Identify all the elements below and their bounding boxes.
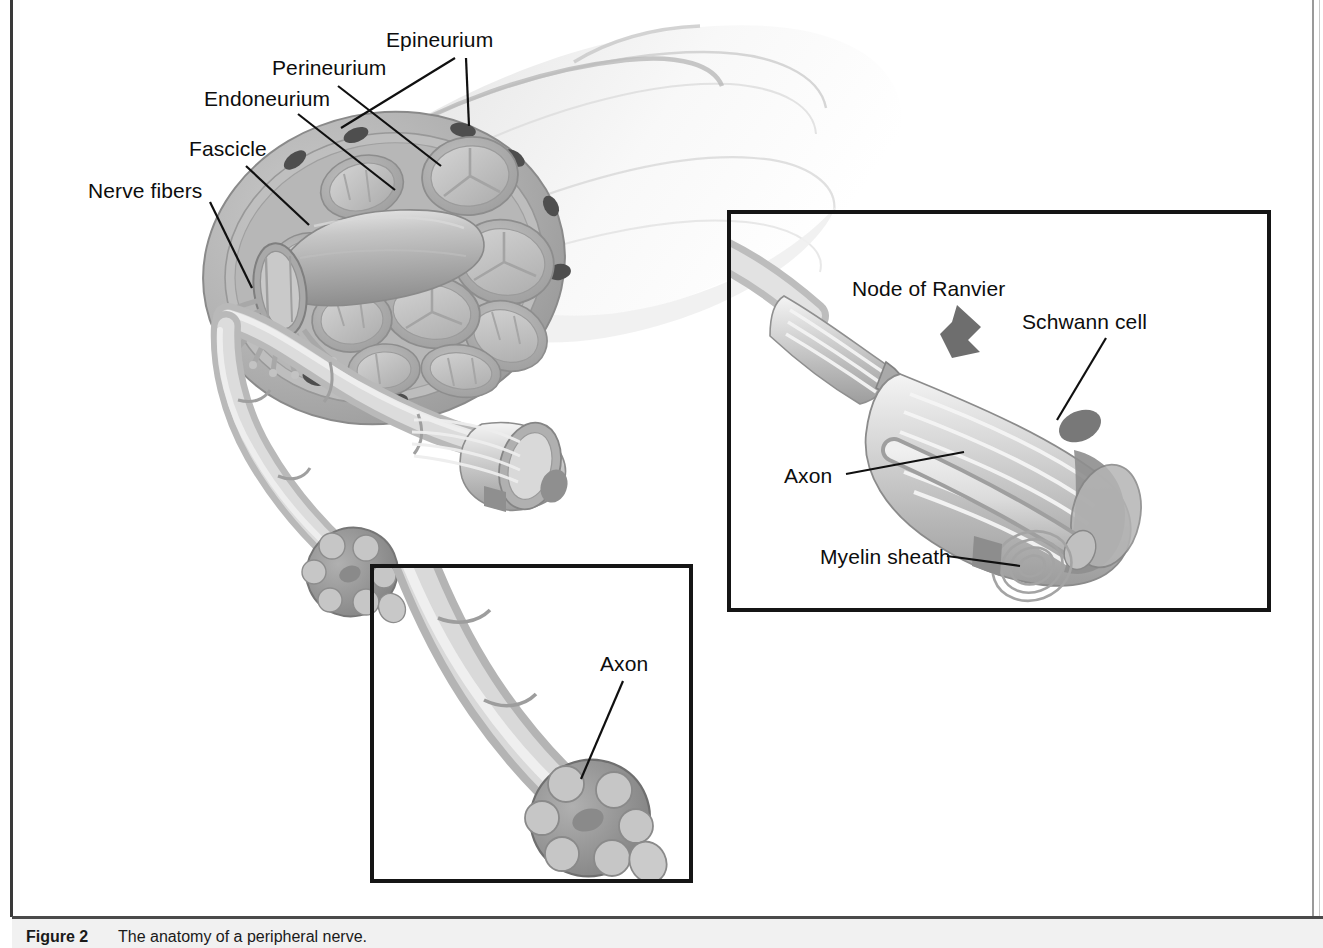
page-rule-left	[10, 0, 13, 917]
label-epineurium: Epineurium	[386, 29, 493, 50]
label-schwann-cell: Schwann cell	[1022, 311, 1147, 332]
label-fascicle: Fascicle	[189, 138, 267, 159]
label-node-of-ranvier: Node of Ranvier	[852, 278, 1005, 299]
figure-page: Epineurium Perineurium Endoneurium Fasci…	[0, 0, 1323, 948]
label-axon-inset-right: Axon	[784, 465, 832, 486]
label-myelin-sheath: Myelin sheath	[820, 546, 951, 567]
inset-panel-axon-bundle	[370, 564, 693, 883]
label-axon-inset-bottom: Axon	[600, 653, 648, 674]
page-rule-right	[1312, 0, 1314, 917]
figure-canvas: Epineurium Perineurium Endoneurium Fasci…	[14, 0, 1312, 916]
figure-caption-text: The anatomy of a peripheral nerve.	[118, 928, 367, 946]
label-nerve-fibers: Nerve fibers	[88, 180, 202, 201]
label-endoneurium: Endoneurium	[204, 88, 330, 109]
label-perineurium: Perineurium	[272, 57, 386, 78]
inset-panel-myelinated-fiber	[727, 210, 1271, 612]
figure-caption-number: Figure 2	[26, 928, 88, 946]
page-rule-right-outer	[1319, 0, 1320, 948]
